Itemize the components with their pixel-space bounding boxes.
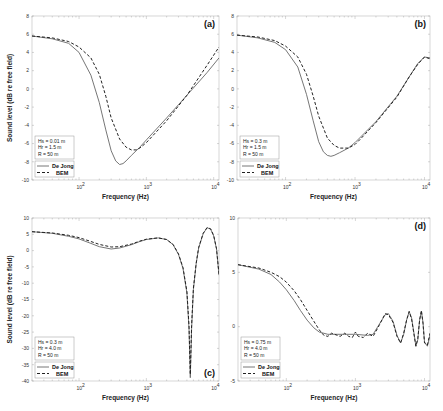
x-tick-exponent: 2: [289, 382, 292, 388]
param-text: R = 50 m: [38, 352, 58, 358]
y-tick-label: 0: [232, 323, 235, 329]
x-axis-label: Frequency (Hz): [310, 193, 357, 201]
y-tick-label: -25: [22, 329, 29, 335]
y-tick-label: -2: [25, 104, 30, 110]
x-tick-exponent: 3: [149, 382, 152, 388]
x-tick-exponent: 4: [217, 382, 220, 388]
x-tick-exponent: 3: [358, 181, 361, 187]
param-text: Hr = 1.5 m: [243, 144, 266, 150]
x-tick-exponent: 2: [82, 181, 85, 187]
param-text: R = 50 m: [244, 352, 264, 358]
y-tick-label: 0: [26, 247, 29, 253]
x-tick-exponent: 3: [358, 382, 361, 388]
legend-label-de-jong: De Jong: [52, 364, 74, 370]
series-de-jong-line: [238, 265, 430, 347]
y-tick-label: -40: [22, 378, 29, 384]
legend-label-bem: BEM: [56, 170, 69, 176]
y-tick-label: -2: [230, 104, 235, 110]
legend-label-bem: BEM: [261, 170, 274, 176]
y-tick-label: -6: [25, 140, 30, 146]
x-axis-label: Frequency (Hz): [102, 193, 149, 201]
x-tick-exponent: 2: [82, 382, 85, 388]
y-tick-label: -5: [25, 264, 30, 270]
y-tick-label: 5: [232, 269, 235, 275]
y-axis-label: Sound level (dB re free field): [6, 255, 14, 343]
y-tick-label: 0: [231, 86, 234, 92]
y-tick-label: 2: [26, 67, 29, 73]
panel-label: (c): [204, 368, 215, 378]
y-tick-label: 2: [231, 67, 234, 73]
y-tick-label: 8: [26, 13, 29, 19]
y-axis-label: Sound level (dB re free field): [6, 54, 14, 142]
x-tick-exponent: 4: [217, 181, 220, 187]
y-tick-label: 4: [26, 49, 29, 55]
y-tick-label: -35: [22, 362, 29, 368]
series-bem-line: [32, 36, 219, 150]
panel-a: 102103104-10-8-6-4-202468Frequency (Hz)S…: [6, 13, 220, 201]
y-tick-label: -8: [25, 159, 30, 165]
legend-label-de-jong: De Jong: [258, 364, 280, 370]
panel-b: 102103104-10-8-6-4-202468Frequency (Hz)(…: [227, 13, 431, 201]
panel-label: (d): [415, 221, 427, 231]
panel-label: (b): [415, 19, 427, 29]
y-tick-label: 10: [229, 215, 235, 221]
y-tick-label: -10: [22, 177, 29, 183]
y-tick-label: 6: [26, 31, 29, 37]
y-tick-label: -8: [230, 159, 235, 165]
param-text: Hr = 4.0 m: [38, 345, 61, 351]
legend-label-bem: BEM: [262, 371, 275, 377]
panel-d: 102103104-50510Frequency (Hz)(d)Hs = 0.7…: [229, 215, 430, 402]
y-tick-label: -4: [25, 122, 30, 128]
y-tick-label: 10: [23, 215, 29, 221]
param-text: Hs = 0.3 m: [38, 339, 62, 345]
param-text: Hs = 0.01 m: [38, 138, 65, 144]
y-tick-label: -4: [230, 122, 235, 128]
y-tick-label: 6: [231, 31, 234, 37]
y-tick-label: -6: [230, 140, 235, 146]
panel-label: (a): [204, 19, 215, 29]
y-tick-label: -5: [231, 378, 236, 384]
x-tick-exponent: 4: [428, 382, 431, 388]
param-text: R = 50 m: [38, 151, 58, 157]
legend-label-de-jong: De Jong: [52, 163, 74, 169]
param-text: R = 50 m: [243, 151, 263, 157]
panel-c: 102103104-40-35-30-25-20-15-10-50510Freq…: [6, 215, 220, 402]
param-text: Hs = 0.3 m: [243, 138, 267, 144]
x-tick-exponent: 3: [149, 181, 152, 187]
y-tick-label: -20: [22, 313, 29, 319]
param-text: Hr = 1.5 m: [38, 144, 61, 150]
param-text: Hs = 0.75 m: [244, 339, 271, 345]
y-tick-label: 5: [26, 231, 29, 237]
x-tick-exponent: 2: [289, 181, 292, 187]
figure-canvas: 102103104-10-8-6-4-202468Frequency (Hz)S…: [0, 0, 443, 411]
legend-label-de-jong: De Jong: [257, 163, 279, 169]
param-text: Hr = 4.0 m: [244, 345, 267, 351]
x-axis-label: Frequency (Hz): [311, 394, 358, 402]
y-tick-label: 4: [231, 49, 234, 55]
y-tick-label: -10: [227, 177, 234, 183]
y-tick-label: -15: [22, 296, 29, 302]
legend-label-bem: BEM: [56, 371, 69, 377]
y-tick-label: 0: [26, 86, 29, 92]
x-tick-exponent: 4: [427, 181, 430, 187]
y-tick-label: 8: [231, 13, 234, 19]
y-tick-label: -10: [22, 280, 29, 286]
y-tick-label: -30: [22, 345, 29, 351]
x-axis-label: Frequency (Hz): [102, 394, 149, 402]
series-bem-line: [237, 35, 430, 148]
